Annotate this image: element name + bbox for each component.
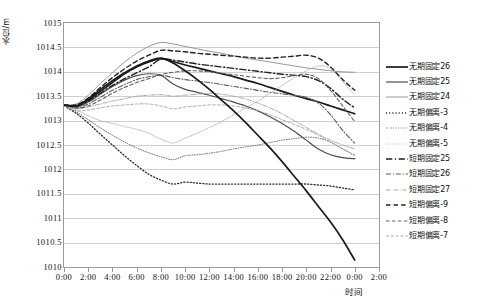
legend-line-swatch	[386, 77, 408, 87]
series-lines	[64, 23, 379, 267]
y-tick-label: 1011	[18, 214, 62, 223]
legend-item[interactable]: 无期固定25	[386, 74, 478, 89]
legend-item[interactable]: 无期偏离-4	[386, 121, 478, 136]
legend-item-label: 无期偏离-3	[408, 108, 448, 118]
legend-line-swatch	[386, 231, 408, 241]
x-tick-label: 2:00	[371, 273, 387, 282]
x-tick-label: 6:00	[129, 273, 145, 282]
legend-line-swatch	[386, 92, 408, 102]
x-tick-label: 8:00	[153, 273, 169, 282]
legend-item[interactable]: 短期偏离-7	[386, 228, 478, 243]
x-tick-label: 18:00	[272, 273, 293, 282]
legend-line-swatch	[386, 62, 408, 72]
x-axis-ticks: 0:002:004:006:008:0010:0012:0014:0016:00…	[0, 268, 478, 304]
y-axis-ticks: 10151014.510141013.510131012.510121011.5…	[14, 0, 62, 304]
legend-line-swatch	[386, 169, 408, 179]
x-tick-label: 22:00	[320, 273, 341, 282]
legend-item-label: 无期固定24	[408, 92, 450, 102]
legend-item-label: 无期偏离-4	[408, 123, 448, 133]
x-axis-title: 时间	[345, 285, 363, 297]
legend-item-label: 无期固定25	[408, 77, 450, 87]
series-line-短期偏离-7	[64, 104, 355, 155]
legend-item[interactable]: 无期偏离-5	[386, 136, 478, 151]
y-tick-label: 1012.5	[18, 141, 62, 150]
legend-item-label: 短期偏离-8	[408, 216, 448, 226]
x-tick-label: 20:00	[296, 273, 317, 282]
legend-item[interactable]: 短期固定27	[386, 182, 478, 197]
legend: 无期固定26无期固定25无期固定24无期偏离-3无期偏离-4无期偏离-5短期固定…	[386, 59, 478, 244]
line-chart: 水位/m 10151014.510141013.510131012.510121…	[0, 0, 478, 304]
series-line-无期固定26	[64, 59, 355, 114]
legend-item-label: 短期固定27	[408, 185, 450, 195]
legend-item[interactable]: 短期固定26	[386, 167, 478, 182]
x-tick-label: 4:00	[104, 273, 120, 282]
series-line-短期固定27	[64, 93, 355, 149]
legend-line-swatch	[386, 123, 408, 133]
legend-line-swatch	[386, 200, 408, 210]
legend-item[interactable]: 无期固定26	[386, 59, 478, 74]
y-tick-label: 1014	[18, 67, 62, 76]
x-tick-label: 2:00	[80, 273, 96, 282]
legend-line-swatch	[386, 139, 408, 149]
series-line-无期偏离-4	[64, 106, 355, 160]
series-line-无期偏离-3	[64, 106, 355, 190]
legend-line-swatch	[386, 216, 408, 226]
legend-item[interactable]: 无期固定24	[386, 90, 478, 105]
legend-item-label: 无期偏离-5	[408, 139, 448, 149]
x-tick-label: 0:00	[56, 273, 72, 282]
y-tick-label: 1013.5	[18, 92, 62, 101]
legend-item[interactable]: 短期偏离-8	[386, 213, 478, 228]
legend-line-swatch	[386, 154, 408, 164]
legend-item-label: 短期偏离-7	[408, 231, 448, 241]
y-tick-label: 1010.5	[18, 238, 62, 247]
x-tick-label: 12:00	[199, 273, 220, 282]
legend-item-label: 无期固定26	[408, 62, 450, 72]
y-tick-label: 1015	[18, 19, 62, 28]
legend-item-label: 短期固定25	[408, 154, 450, 164]
x-tick-label: 10:00	[175, 273, 196, 282]
y-tick-label: 1011.5	[18, 189, 62, 198]
x-tick-label: 0:00	[347, 273, 363, 282]
legend-item-label: 短期偏离-9	[408, 200, 448, 210]
x-tick-label: 14:00	[223, 273, 244, 282]
y-tick-label: 1013	[18, 116, 62, 125]
legend-item-label: 短期固定26	[408, 169, 450, 179]
plot-area	[63, 22, 380, 268]
x-tick-label: 16:00	[247, 273, 268, 282]
legend-item[interactable]: 无期偏离-3	[386, 105, 478, 120]
y-tick-label: 1014.5	[18, 43, 62, 52]
legend-item[interactable]: 短期固定25	[386, 151, 478, 166]
legend-line-swatch	[386, 185, 408, 195]
legend-item[interactable]: 短期偏离-9	[386, 198, 478, 213]
legend-line-swatch	[386, 108, 408, 118]
y-tick-label: 1012	[18, 165, 62, 174]
